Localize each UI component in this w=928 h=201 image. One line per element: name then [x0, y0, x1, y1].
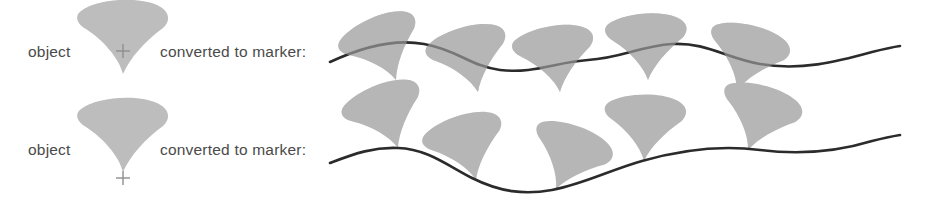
row1-object-sample-icon: [77, 0, 168, 74]
row-tip-reference: object converted to marker:: [28, 72, 900, 201]
figure-canvas: object converted to marker:: [0, 0, 928, 201]
row1-converted-label: converted to marker:: [160, 43, 306, 60]
row2-markers: [337, 72, 807, 201]
row-center-reference: object converted to marker:: [28, 0, 900, 102]
row2-converted-label: converted to marker:: [160, 141, 306, 158]
row2-object-label: object: [28, 141, 71, 158]
row1-curve: [330, 42, 900, 71]
row2-object-sample-icon: [77, 98, 168, 185]
row1-object-label: object: [28, 43, 71, 60]
row2-curve: [330, 135, 900, 192]
marker-conversion-figure: object converted to marker:: [0, 0, 928, 201]
row2-reference-cross-icon: [116, 171, 130, 185]
